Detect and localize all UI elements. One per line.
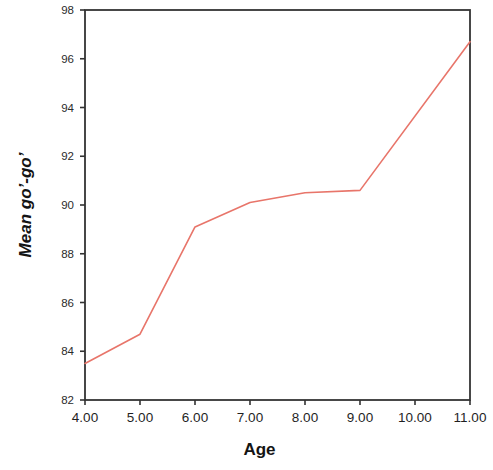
x-tick-label: 11.00: [454, 410, 487, 425]
x-tick-label: 10.00: [398, 410, 432, 425]
data-line: [85, 42, 470, 364]
y-tick-label: 84: [61, 345, 74, 357]
axes-frame: [85, 10, 470, 400]
y-tick-label: 86: [61, 297, 74, 309]
y-tick-label: 98: [61, 4, 74, 16]
y-tick-label: 94: [61, 102, 74, 114]
x-tick-label: 4.00: [72, 410, 98, 425]
y-axis-title-container: Mean go’-go’: [6, 100, 46, 310]
y-tick-label: 96: [61, 53, 74, 65]
x-axis-title: Age: [0, 440, 493, 460]
data-series-group: [85, 42, 470, 364]
y-axis-ticks: 828486889092949698: [61, 4, 85, 406]
x-tick-label: 8.00: [292, 410, 318, 425]
x-tick-label: 7.00: [237, 410, 263, 425]
y-axis-title: Mean go’-go’: [16, 153, 36, 258]
line-chart-plot: 828486889092949698 4.005.006.007.008.009…: [0, 0, 493, 470]
x-tick-label: 5.00: [127, 410, 153, 425]
x-axis-ticks: 4.005.006.007.008.009.0010.0011.00: [72, 400, 487, 425]
x-tick-label: 9.00: [347, 410, 373, 425]
y-tick-label: 88: [61, 248, 74, 260]
plot-frame: [85, 10, 470, 400]
chart-figure: Mean go’-go’ 828486889092949698 4.005.00…: [0, 0, 493, 470]
y-tick-label: 90: [61, 199, 74, 211]
y-tick-label: 92: [61, 150, 74, 162]
x-tick-label: 6.00: [182, 410, 208, 425]
y-tick-label: 82: [61, 394, 74, 406]
